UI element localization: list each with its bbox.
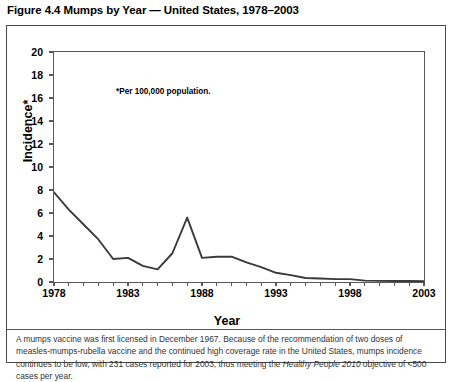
y-tick-label: 8 <box>19 185 43 196</box>
incidence-line <box>54 192 424 281</box>
x-tick-mark <box>364 282 365 286</box>
y-tick-label: 20 <box>19 47 43 58</box>
y-tick-label: 16 <box>19 93 43 104</box>
plot-frame: *Per 100,000 population. <box>53 51 425 283</box>
figure-outer-border: Incidence* *Per 100,000 population. 0246… <box>6 25 446 363</box>
x-tick-mark <box>172 282 173 286</box>
x-tick-mark <box>127 282 128 286</box>
x-tick-label: 1993 <box>254 288 298 299</box>
page-title: Figure 4.4 Mumps by Year — United States… <box>7 4 299 16</box>
x-tick-mark <box>231 282 232 286</box>
x-tick-mark <box>53 282 54 286</box>
x-tick-mark <box>275 282 276 286</box>
x-tick-mark <box>290 282 291 286</box>
y-tick-label: 14 <box>19 116 43 127</box>
y-tick-label: 2 <box>19 254 43 265</box>
data-line-chart <box>54 52 424 282</box>
y-tick-mark <box>49 258 53 259</box>
x-tick-mark <box>379 282 380 286</box>
x-tick-mark <box>98 282 99 286</box>
x-tick-mark <box>409 282 410 286</box>
y-tick-mark <box>49 143 53 144</box>
y-tick-mark <box>49 120 53 121</box>
x-tick-label: 1983 <box>106 288 150 299</box>
x-tick-mark <box>349 282 350 286</box>
x-tick-mark <box>68 282 69 286</box>
x-tick-mark <box>157 282 158 286</box>
y-tick-mark <box>49 212 53 213</box>
x-tick-mark <box>423 282 424 286</box>
y-tick-label: 4 <box>19 231 43 242</box>
x-tick-mark <box>142 282 143 286</box>
x-tick-mark <box>246 282 247 286</box>
y-tick-mark <box>49 235 53 236</box>
x-tick-label: 1978 <box>32 288 76 299</box>
x-tick-mark <box>83 282 84 286</box>
x-tick-mark <box>187 282 188 286</box>
x-tick-mark <box>216 282 217 286</box>
y-tick-label: 12 <box>19 139 43 150</box>
x-axis-label: Year <box>7 314 447 328</box>
figure-footnote: A mumps vaccine was first licensed in De… <box>16 333 438 382</box>
y-tick-label: 10 <box>19 162 43 173</box>
y-tick-mark <box>49 51 53 52</box>
x-tick-label: 1988 <box>180 288 224 299</box>
x-tick-mark <box>261 282 262 286</box>
y-tick-label: 6 <box>19 208 43 219</box>
x-tick-mark <box>320 282 321 286</box>
x-tick-mark <box>201 282 202 286</box>
footnote-italic-title: Healthy People 2010 <box>283 359 361 369</box>
x-tick-mark <box>305 282 306 286</box>
x-tick-mark <box>113 282 114 286</box>
chart-annotation: *Per 100,000 population. <box>116 87 211 96</box>
x-tick-mark <box>394 282 395 286</box>
y-tick-mark <box>49 97 53 98</box>
x-tick-label: 1998 <box>328 288 372 299</box>
chart-area: Incidence* *Per 100,000 population. 0246… <box>7 26 447 304</box>
y-tick-mark <box>49 74 53 75</box>
y-tick-mark <box>49 189 53 190</box>
x-tick-mark <box>335 282 336 286</box>
y-tick-label: 0 <box>19 277 43 288</box>
y-tick-mark <box>49 166 53 167</box>
footnote-divider <box>7 329 445 330</box>
x-tick-label: 2003 <box>402 288 446 299</box>
y-tick-label: 18 <box>19 70 43 81</box>
